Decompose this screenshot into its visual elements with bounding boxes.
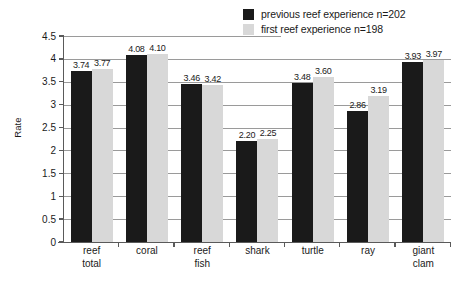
chart-legend: previous reef experience n=202 first ree… bbox=[243, 7, 463, 37]
y-axis-tick-label: 0 bbox=[50, 237, 59, 248]
bar-group: 3.933.97 bbox=[396, 36, 451, 242]
bar-group: 3.743.77 bbox=[64, 36, 119, 242]
y-axis-tick: 1 bbox=[50, 190, 64, 202]
bar-value-label: 2.25 bbox=[260, 128, 276, 138]
y-axis-tick: 3.5 bbox=[42, 76, 64, 88]
y-axis-tick-label: 3.5 bbox=[42, 76, 59, 87]
y-axis-tick-label: 1 bbox=[50, 191, 59, 202]
y-axis-tick: 0 bbox=[50, 236, 64, 248]
y-axis-tick: 2 bbox=[50, 144, 64, 156]
legend-swatch-dark bbox=[243, 9, 254, 20]
x-axis-category-label: coral bbox=[119, 245, 174, 270]
bar[interactable]: 2.86 bbox=[347, 111, 368, 242]
legend-label-first-reef-experience: first reef experience n=198 bbox=[261, 24, 383, 35]
x-axis-category-label: reef fish bbox=[175, 245, 230, 270]
bar[interactable]: 2.25 bbox=[257, 139, 278, 242]
bar[interactable]: 3.93 bbox=[402, 62, 423, 242]
y-axis-tick: 3 bbox=[50, 99, 64, 111]
y-axis-tick-label: 4.5 bbox=[42, 31, 59, 42]
bar[interactable]: 3.42 bbox=[202, 85, 223, 242]
y-axis-tick-label: 0.5 bbox=[42, 214, 59, 225]
bar-value-label: 4.08 bbox=[128, 44, 144, 54]
y-axis-tick-label: 1.5 bbox=[42, 168, 59, 179]
legend-label-previous-reef-experience: previous reef experience n=202 bbox=[261, 9, 405, 20]
legend-swatch-light bbox=[243, 24, 254, 35]
y-axis-tick-label: 2.5 bbox=[42, 122, 59, 133]
bar-group: 2.202.25 bbox=[230, 36, 285, 242]
bar[interactable]: 2.20 bbox=[236, 141, 257, 242]
y-axis-tick-label: 2 bbox=[50, 145, 59, 156]
bar-value-label: 3.42 bbox=[205, 74, 221, 84]
bar[interactable]: 3.60 bbox=[313, 77, 334, 242]
y-axis-tick: 1.5 bbox=[42, 167, 64, 179]
bar-group: 2.863.19 bbox=[340, 36, 395, 242]
x-axis-category-label: giant clam bbox=[396, 245, 451, 270]
y-axis-tick-label: 4 bbox=[50, 53, 59, 64]
x-axis-labels: reef totalcoralreef fishsharkturtleraygi… bbox=[64, 245, 451, 270]
bar-value-label: 2.20 bbox=[239, 130, 255, 140]
bar[interactable]: 3.48 bbox=[292, 83, 313, 242]
legend-item-first-reef-experience: first reef experience n=198 bbox=[243, 22, 463, 37]
bar-value-label: 4.10 bbox=[149, 43, 165, 53]
bar-value-label: 3.74 bbox=[73, 60, 89, 70]
bar-group: 4.084.10 bbox=[119, 36, 174, 242]
y-axis-tick: 4.5 bbox=[42, 30, 64, 42]
bar-chart: previous reef experience n=202 first ree… bbox=[0, 0, 465, 285]
y-axis-title: Rate bbox=[12, 98, 23, 158]
legend-item-previous-reef-experience: previous reef experience n=202 bbox=[243, 7, 463, 22]
bar-group: 3.463.42 bbox=[175, 36, 230, 242]
y-axis-tick-label: 3 bbox=[50, 99, 59, 110]
x-axis-category-label: ray bbox=[340, 245, 395, 270]
bar-groups: 3.743.774.084.103.463.422.202.253.483.60… bbox=[64, 36, 451, 242]
y-axis-tick: 2.5 bbox=[42, 122, 64, 134]
bar-value-label: 3.46 bbox=[184, 73, 200, 83]
x-axis-category-label: shark bbox=[230, 245, 285, 270]
bar-value-label: 3.97 bbox=[426, 49, 442, 59]
y-axis-tick: 4 bbox=[50, 53, 64, 65]
bar[interactable]: 3.77 bbox=[92, 69, 113, 242]
x-axis-category-label: turtle bbox=[285, 245, 340, 270]
bar-value-label: 3.77 bbox=[94, 58, 110, 68]
x-axis-category-label: reef total bbox=[64, 245, 119, 270]
bar-value-label: 3.93 bbox=[405, 51, 421, 61]
bar-value-label: 3.19 bbox=[370, 85, 386, 95]
bar[interactable]: 3.74 bbox=[71, 71, 92, 242]
bar-value-label: 3.60 bbox=[315, 66, 331, 76]
bar-group: 3.483.60 bbox=[285, 36, 340, 242]
bar[interactable]: 4.08 bbox=[126, 55, 147, 242]
y-axis-tick: 0.5 bbox=[42, 213, 64, 225]
bar-value-label: 2.86 bbox=[349, 100, 365, 110]
bar[interactable]: 3.19 bbox=[368, 96, 389, 242]
plot-area: 4.543.532.521.510.50 3.743.774.084.103.4… bbox=[64, 36, 451, 242]
bar[interactable]: 3.97 bbox=[423, 60, 444, 242]
bar-value-label: 3.48 bbox=[294, 72, 310, 82]
bar[interactable]: 3.46 bbox=[181, 84, 202, 242]
bar[interactable]: 4.10 bbox=[147, 54, 168, 242]
